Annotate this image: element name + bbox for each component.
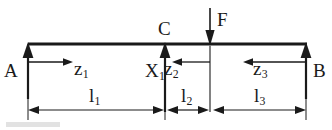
label-dimension-l1: l1: [89, 86, 100, 105]
label-dimension-l3: l3: [254, 86, 265, 105]
coordinate-axis-z1: [28, 58, 73, 66]
label-support-b: B: [313, 61, 326, 80]
label-force-f: F: [217, 10, 228, 29]
subscript-x1: 1: [159, 70, 165, 83]
label-coordinate-z2: z2: [164, 59, 178, 78]
subscript-z2: 2: [173, 68, 179, 81]
subscript-z3: 3: [262, 68, 268, 81]
label-redundant-x1: X1: [145, 61, 165, 80]
applied-force-f-arrow: [205, 8, 214, 112]
label-dimension-l2: l2: [181, 86, 192, 105]
subscript-l3: 3: [260, 95, 266, 108]
label-coordinate-z3: z3: [253, 59, 267, 78]
beam-diagram-figure: A B C F z1 z2 z3 X1 l1 l2 l3: [0, 0, 332, 130]
subscript-z1: 1: [83, 68, 89, 81]
label-support-a: A: [4, 61, 18, 80]
scan-artifact: [6, 122, 60, 127]
subscript-l2: 2: [187, 95, 193, 108]
subscript-l1: 1: [95, 95, 101, 108]
label-coordinate-z1: z1: [74, 59, 88, 78]
label-support-c: C: [158, 19, 171, 38]
